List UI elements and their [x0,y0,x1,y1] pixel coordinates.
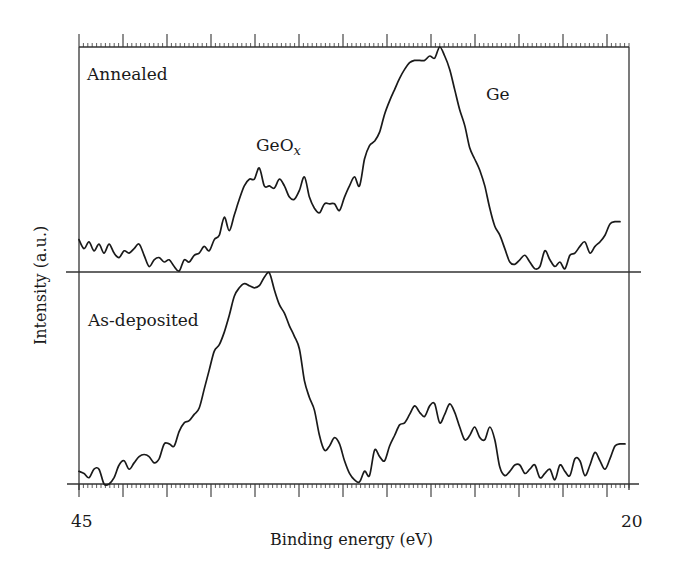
peak-label-geox: GeOx [256,137,301,154]
peak-label-ge: Ge [486,86,510,103]
axes [66,47,641,490]
x-axis-title: Binding energy (eV) [270,532,433,548]
panel-label-annealed: Annealed [87,66,168,83]
peak-label-geox-main: GeO [256,135,294,155]
xps-spectrum-figure: Annealed As-deposited GeOx Ge 45 20 Bind… [0,0,675,578]
x-tick-label-45: 45 [71,513,93,530]
y-axis-title: Intensity (a.u.) [33,226,49,345]
x-tick-label-20: 20 [621,513,643,530]
spectrum-line-as-deposited [79,272,625,485]
plot-area [0,0,675,578]
spectrum-curves [79,47,625,485]
axis-ticks [79,34,629,497]
panel-label-as-deposited: As-deposited [88,312,199,329]
peak-label-geox-subscript: x [294,143,301,158]
